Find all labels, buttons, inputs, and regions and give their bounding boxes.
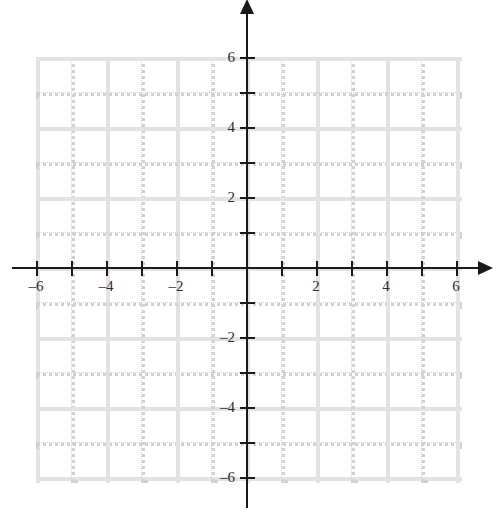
x-axis-tick [281, 261, 283, 276]
y-axis-tick [240, 302, 255, 304]
y-axis-tick [240, 477, 255, 479]
y-axis-tick-label: 2 [228, 190, 236, 205]
y-axis-tick [240, 232, 255, 234]
y-axis-tick [240, 197, 255, 199]
x-axis-tick-label: 2 [312, 279, 320, 294]
x-axis-tick-label: ‒4 [99, 279, 114, 294]
x-axis-tick-label: 4 [382, 279, 390, 294]
y-axis-arrow-icon [240, 0, 254, 14]
coordinate-plane: ‒6‒4‒2246642‒2‒4‒6 [0, 0, 498, 519]
y-axis-tick [240, 337, 255, 339]
y-axis-tick-label: ‒4 [220, 400, 235, 415]
x-axis-tick [386, 261, 388, 276]
x-axis [12, 267, 478, 269]
x-axis-tick [211, 261, 213, 276]
x-axis-tick-label: 6 [452, 279, 460, 294]
x-axis-tick [106, 261, 108, 276]
y-axis [246, 14, 248, 508]
x-axis-tick [456, 261, 458, 276]
y-axis-tick [240, 57, 255, 59]
y-axis-tick [240, 407, 255, 409]
x-axis-tick [141, 261, 143, 276]
x-axis-arrow-icon [478, 261, 493, 275]
y-axis-tick-label: 4 [228, 120, 236, 135]
x-axis-tick [71, 261, 73, 276]
y-axis-tick [240, 372, 255, 374]
x-axis-tick [421, 261, 423, 276]
y-axis-tick-label: ‒6 [220, 470, 235, 485]
x-axis-tick-label: ‒2 [169, 279, 184, 294]
x-axis-tick [36, 261, 38, 276]
y-axis-tick-label: ‒2 [220, 330, 235, 345]
y-axis-tick-label: 6 [228, 50, 236, 65]
x-axis-tick [316, 261, 318, 276]
x-axis-tick [351, 261, 353, 276]
x-axis-tick-label: ‒6 [29, 279, 44, 294]
x-axis-tick [176, 261, 178, 276]
y-axis-tick [240, 162, 255, 164]
y-axis-tick [240, 92, 255, 94]
y-axis-tick [240, 442, 255, 444]
y-axis-tick [240, 127, 255, 129]
